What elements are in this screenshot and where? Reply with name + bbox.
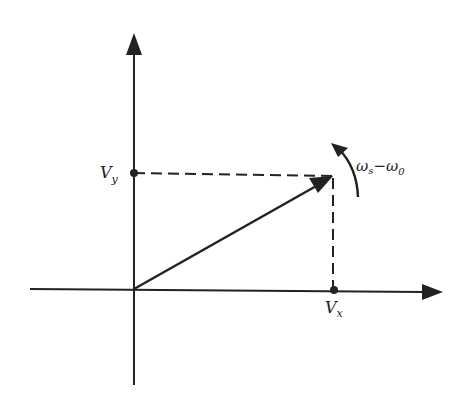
vy-projection-line xyxy=(134,173,333,176)
vector-arrowhead-icon xyxy=(309,176,333,193)
y-axis xyxy=(126,33,142,385)
phasor-vector xyxy=(134,176,333,289)
vy-point xyxy=(130,169,138,177)
rotation-arrow xyxy=(331,143,358,197)
vx-label: Vx xyxy=(325,298,344,320)
x-axis xyxy=(30,284,443,300)
x-axis-arrow-icon xyxy=(422,284,443,300)
vy-label: Vy xyxy=(100,163,119,186)
vx-point xyxy=(330,286,338,294)
phasor-diagram: Vy Vx ωs−ω0 xyxy=(0,0,462,419)
y-axis-arrow-icon xyxy=(126,33,142,55)
rotation-label: ωs−ω0 xyxy=(356,157,405,177)
